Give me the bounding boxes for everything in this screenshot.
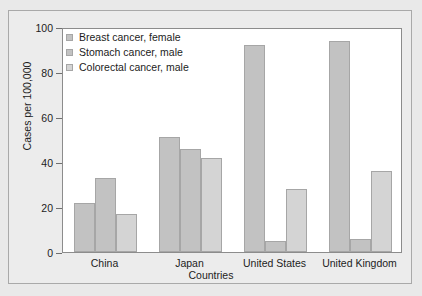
bar: [371, 171, 392, 252]
bar: [180, 149, 201, 253]
bar: [286, 189, 307, 252]
bar: [74, 203, 95, 253]
bar: [244, 45, 265, 252]
legend-item: Colorectal cancer, male: [66, 60, 216, 74]
y-axis-tick-label: 40: [41, 158, 53, 168]
x-axis-tick-label: China: [91, 257, 118, 269]
bar: [95, 178, 116, 252]
legend-item-label: Colorectal cancer, male: [79, 62, 189, 73]
legend-item: Stomach cancer, male: [66, 45, 216, 59]
x-axis-tick-label: Japan: [175, 257, 204, 269]
y-axis-tick-label: 60: [41, 113, 53, 123]
bar: [116, 214, 137, 252]
legend-item-label: Breast cancer, female: [79, 32, 181, 43]
legend-item-label: Stomach cancer, male: [79, 47, 183, 58]
legend-swatch-icon: [66, 64, 73, 71]
chart-figure: 020406080100 Cases per 100,000 Breast ca…: [0, 0, 422, 296]
x-axis-tick-label: United States: [243, 257, 306, 269]
y-axis-title: Cases per 100,000: [21, 16, 33, 196]
bar: [329, 41, 350, 253]
bar: [201, 158, 222, 253]
bar: [350, 239, 371, 253]
y-axis-tick-label: 20: [41, 203, 53, 213]
legend-swatch-icon: [66, 34, 73, 41]
chart-legend: Breast cancer, femaleStomach cancer, mal…: [66, 30, 216, 75]
y-axis-tick-mark: [56, 253, 62, 254]
legend-swatch-icon: [66, 49, 73, 56]
x-axis-tick-label: United Kingdom: [322, 257, 397, 269]
x-axis-title: Countries: [0, 269, 422, 281]
bar: [159, 137, 180, 252]
y-axis-tick-label: 100: [35, 23, 53, 33]
y-axis-tick-label: 0: [47, 248, 53, 258]
legend-item: Breast cancer, female: [66, 30, 216, 44]
y-axis-tick-label: 80: [41, 68, 53, 78]
bar: [265, 241, 286, 252]
